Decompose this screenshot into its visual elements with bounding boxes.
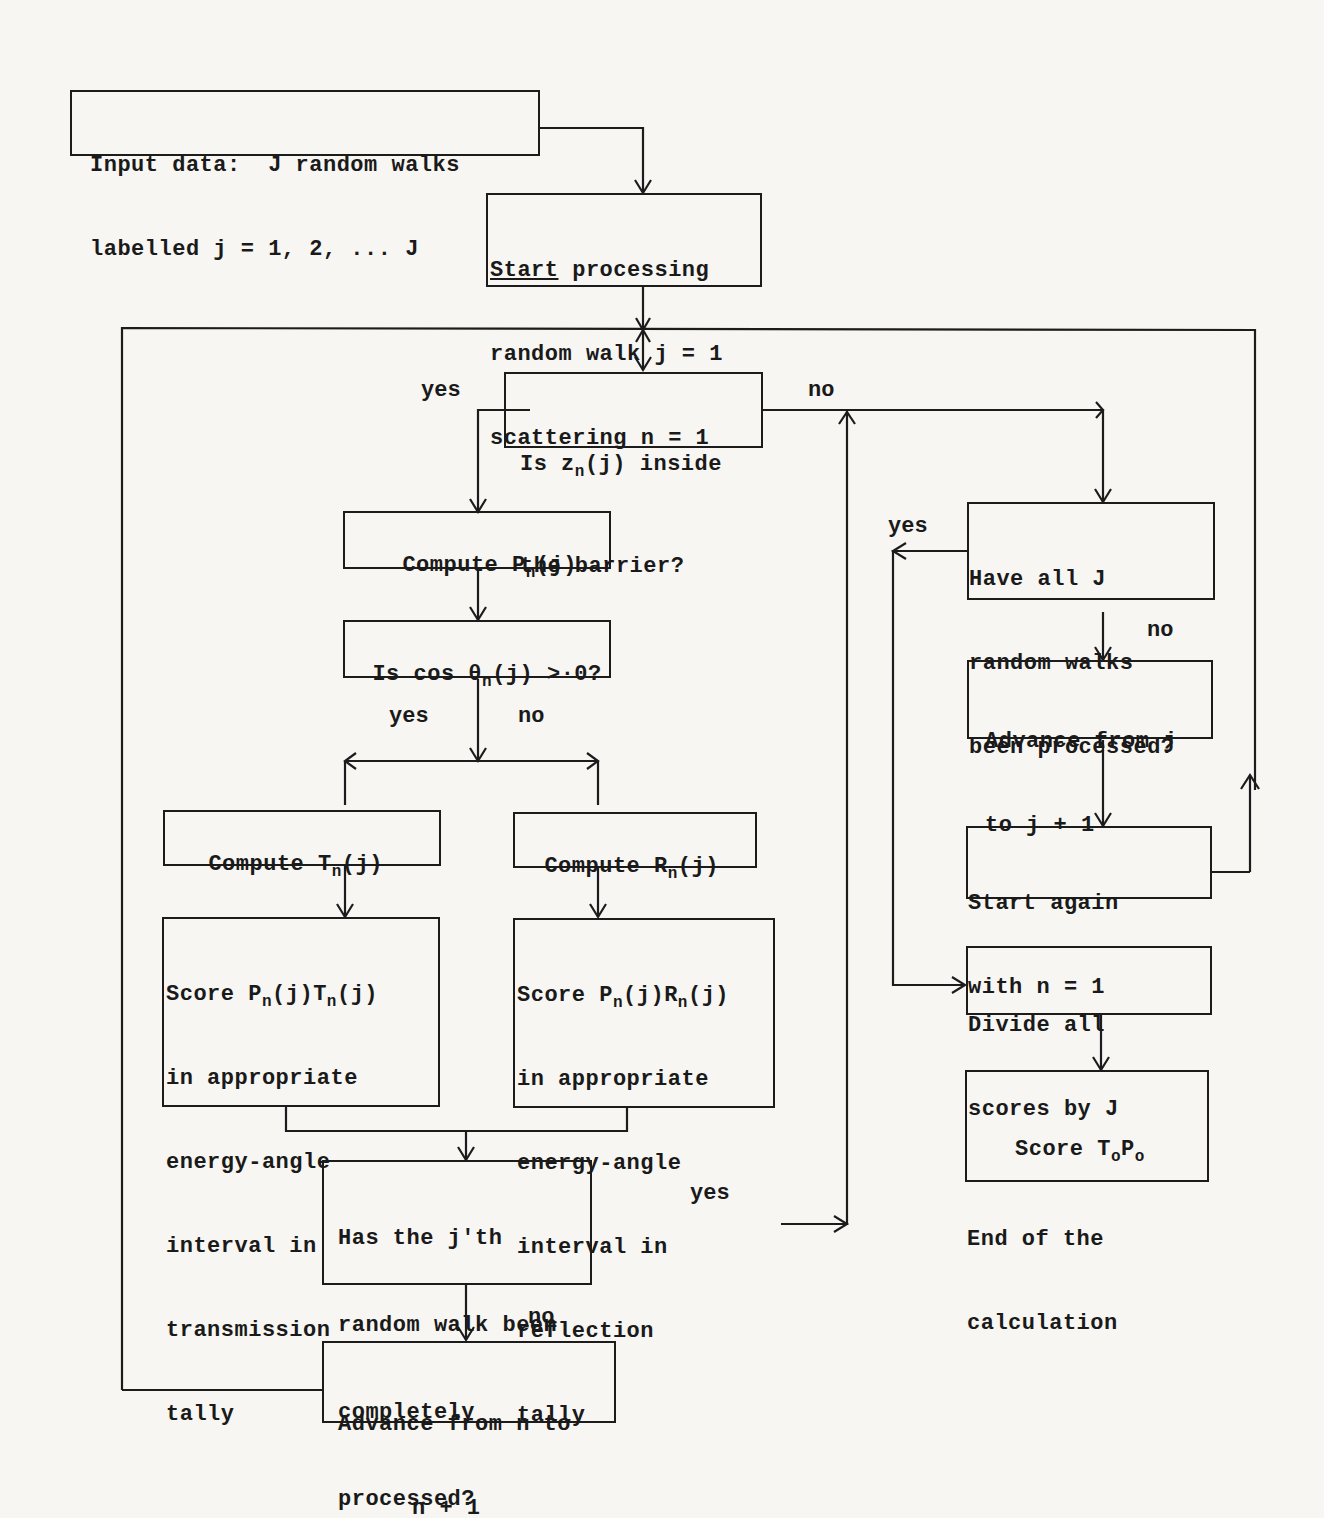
score-r-sub1: n [613, 994, 623, 1012]
score-transmission-node: Score Pn(j)Tn(j) in appropriate energy-a… [162, 917, 440, 1107]
score-t-a: Score P [166, 982, 262, 1007]
score-t-b: (j)T [272, 982, 327, 1007]
score-t-sub1: n [262, 993, 272, 1011]
compute-r-sub: n [668, 865, 678, 883]
input-line-2: labelled j = 1, 2, ... J [90, 236, 538, 264]
allj-yes-label: yes [888, 514, 928, 539]
cos-a: Is cos θ [372, 662, 482, 687]
inside-text-a: Is z [520, 452, 575, 477]
score-r-a: Score P [517, 983, 613, 1008]
end-a: Score T [1015, 1137, 1111, 1162]
cos-theta-decision: Is cos θn(j) >·0? [343, 620, 611, 678]
advance-j-line-1: Advance from j [985, 728, 1211, 756]
compute-r-b: (j) [678, 854, 719, 879]
advance-j-node: Advance from j to j + 1 [967, 660, 1213, 739]
compute-p-sub: n [526, 564, 536, 582]
cos-yes-label: yes [389, 704, 429, 729]
walk-complete-decision: Has the j'th random walk been completely… [322, 1160, 592, 1285]
divide-scores-node: Divide all scores by J [966, 946, 1212, 1015]
compute-p-a: Compute P [402, 553, 525, 578]
compute-t-sub: n [332, 863, 342, 881]
all-walks-processed-decision: Have all J random walks been processed? [967, 502, 1215, 600]
compute-r-node: Compute Rn(j) [513, 812, 757, 868]
allj-line-1: Have all J [969, 566, 1213, 594]
complete-line-1: Has the j'th [338, 1224, 590, 1253]
start-line-2: random walk j = 1 [490, 341, 760, 369]
divide-line-1: Divide all [968, 1012, 1210, 1040]
compute-t-a: Compute T [208, 852, 331, 877]
inside-yes-label: yes [421, 378, 461, 403]
start-again-line-1: Start again [968, 890, 1210, 918]
end-sub1: o [1111, 1148, 1121, 1166]
score-r-sub2: n [678, 994, 688, 1012]
start-again-node: Start again with n = 1 [966, 826, 1212, 899]
score-t-sub2: n [327, 993, 337, 1011]
score-r-b: (j)R [623, 983, 678, 1008]
inside-barrier-decision: Is zn(j) inside the barrier? [504, 372, 763, 448]
end-b: P [1121, 1137, 1135, 1162]
compute-p-b: (j) [536, 553, 577, 578]
score-t-c: (j) [337, 982, 378, 1007]
compute-t-node: Compute Tn(j) [163, 810, 441, 866]
score-t-line-2: in appropriate [166, 1065, 438, 1093]
compute-r-a: Compute R [544, 854, 667, 879]
compute-p-node: Compute Pn(j) [343, 511, 611, 569]
end-line-3: calculation [967, 1310, 1207, 1338]
advance-n-line-2: n + 1 [338, 1495, 614, 1518]
score-r-line-2: in appropriate [517, 1066, 773, 1094]
start-underlined: Start [490, 258, 559, 283]
allj-no-label: no [1147, 618, 1173, 643]
end-sub2: o [1135, 1148, 1145, 1166]
compute-t-b: (j) [342, 852, 383, 877]
start-line-1-rest: processing [559, 258, 710, 283]
inside-no-label: no [808, 378, 834, 403]
input-data-node: Input data: J random walks labelled j = … [70, 90, 540, 156]
start-processing-node: Start processing random walk j = 1 scatt… [486, 193, 762, 287]
complete-yes-label: yes [690, 1181, 730, 1206]
score-reflection-node: Score Pn(j)Rn(j) in appropriate energy-a… [513, 918, 775, 1108]
inside-sub: n [575, 463, 585, 481]
score-r-c: (j) [688, 983, 729, 1008]
end-line-2: End of the [967, 1226, 1207, 1254]
inside-text-b: (j) inside [585, 452, 722, 477]
input-line-1: Input data: J random walks [90, 152, 538, 180]
cos-sub: n [482, 673, 492, 691]
cos-b: (j) >·0? [492, 662, 602, 687]
advance-n-node: Advance from n to n + 1 [322, 1341, 616, 1423]
advance-n-line-1: Advance from n to [338, 1411, 614, 1439]
end-calculation-node: Score ToPo End of the calculation [965, 1070, 1209, 1182]
cos-no-label: no [518, 704, 544, 729]
complete-no-label: no [528, 1305, 554, 1330]
